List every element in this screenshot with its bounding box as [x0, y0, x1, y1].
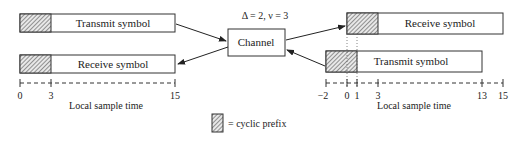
left-transmit-label: Transmit symbol	[76, 17, 150, 29]
cyclic-prefix-hatch	[347, 13, 378, 34]
right-transmit-label: Transmit symbol	[374, 55, 448, 67]
cyclic-prefix-hatch	[20, 14, 51, 32]
right-receive-symbol: Receive symbol	[347, 13, 503, 34]
tick-label: 0	[345, 90, 350, 101]
cyclic-prefix-diagram: Transmit symbol Receive symbol 0 3 15 Lo…	[0, 0, 523, 150]
right-receive-label: Receive symbol	[405, 17, 476, 29]
tick-label: 0	[18, 90, 23, 101]
tick-label: 3	[49, 90, 54, 101]
arrow-icon	[286, 26, 345, 40]
right-time-axis: −2 0 1 3 13 15 Local sample time	[318, 79, 508, 111]
tick-label: 13	[477, 90, 487, 101]
right-transmit-symbol: Transmit symbol	[326, 51, 482, 72]
tick-label: 15	[170, 90, 180, 101]
left-time-axis: 0 3 15 Local sample time	[18, 79, 181, 111]
channel-label: Channel	[238, 36, 275, 48]
arrow-icon	[287, 50, 325, 66]
left-axis-label: Local sample time	[69, 100, 143, 111]
left-transmit-symbol: Transmit symbol	[20, 14, 175, 32]
channel-params: Δ = 2, ν = 3	[242, 10, 289, 21]
cyclic-prefix-hatch	[20, 55, 51, 73]
arrow-icon	[176, 24, 226, 41]
arrow-icon	[178, 47, 228, 64]
right-axis-label: Local sample time	[377, 100, 451, 111]
tick-label: 1	[355, 90, 360, 101]
left-receive-label: Receive symbol	[78, 58, 149, 70]
tick-label: −2	[318, 90, 329, 101]
cyclic-prefix-swatch	[212, 114, 223, 132]
legend: = cyclic prefix	[212, 114, 286, 132]
tick-label: 15	[498, 90, 508, 101]
cyclic-prefix-hatch	[326, 51, 357, 72]
legend-label: = cyclic prefix	[228, 118, 286, 129]
left-receive-symbol: Receive symbol	[20, 55, 175, 73]
channel-block: Δ = 2, ν = 3 Channel	[228, 10, 288, 56]
